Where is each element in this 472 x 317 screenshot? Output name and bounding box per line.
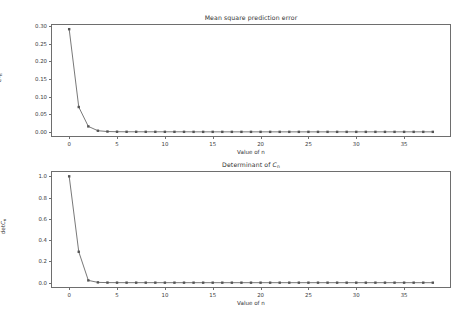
data-point-marker (116, 131, 118, 133)
data-point-marker (240, 281, 242, 283)
x-tick-mark (117, 137, 118, 139)
y-tick-label: 0.2 (25, 258, 47, 264)
data-point-marker (221, 281, 223, 283)
data-point-marker (422, 131, 424, 133)
data-point-marker (97, 281, 99, 283)
data-point-marker (154, 281, 156, 283)
data-point-marker (183, 131, 185, 133)
data-point-marker (116, 281, 118, 283)
data-point-marker (269, 281, 271, 283)
y-tick-mark (49, 97, 51, 98)
data-point-marker (125, 281, 127, 283)
data-point-marker (269, 131, 271, 133)
data-point-marker (154, 131, 156, 133)
y-tick-mark (49, 219, 51, 220)
y-tick-label: 0.15 (25, 76, 47, 82)
data-point-marker (202, 281, 204, 283)
data-point-marker (192, 131, 194, 133)
bottom-data-series (51, 171, 451, 288)
data-point-marker (432, 131, 434, 133)
y-tick-mark (49, 61, 51, 62)
data-point-marker (68, 28, 70, 30)
data-point-marker (106, 281, 108, 283)
top-y-axis-label: e2n (0, 74, 3, 83)
data-point-marker (412, 281, 414, 283)
data-point-marker (432, 281, 434, 283)
y-tick-mark (49, 79, 51, 80)
x-tick-mark (213, 137, 214, 139)
y-tick-mark (49, 176, 51, 177)
x-tick-label: 5 (115, 292, 118, 298)
top-data-series (51, 24, 451, 137)
x-tick-label: 20 (257, 292, 264, 298)
y-tick-mark (49, 283, 51, 284)
x-tick-mark (404, 137, 405, 139)
data-point-marker (68, 175, 70, 177)
data-point-marker (384, 281, 386, 283)
data-point-marker (288, 281, 290, 283)
data-point-marker (393, 281, 395, 283)
x-tick-mark (165, 137, 166, 139)
y-tick-mark (49, 132, 51, 133)
data-point-marker (145, 131, 147, 133)
x-tick-label: 0 (67, 292, 70, 298)
x-tick-mark (308, 288, 309, 290)
data-point-marker (298, 131, 300, 133)
top-chart-title: Mean square prediction error (51, 14, 451, 21)
x-tick-label: 20 (257, 141, 264, 147)
data-point-marker (365, 281, 367, 283)
x-tick-label: 30 (353, 292, 360, 298)
x-tick-label: 25 (305, 141, 312, 147)
data-point-marker (345, 131, 347, 133)
data-point-marker (336, 131, 338, 133)
data-point-marker (202, 131, 204, 133)
series-line (69, 29, 433, 132)
data-point-marker (288, 131, 290, 133)
data-point-marker (240, 131, 242, 133)
data-point-marker (412, 131, 414, 133)
x-tick-mark (404, 288, 405, 290)
data-point-marker (259, 281, 261, 283)
data-point-marker (307, 281, 309, 283)
x-tick-mark (308, 137, 309, 139)
data-point-marker (97, 130, 99, 132)
data-point-marker (212, 281, 214, 283)
data-point-marker (250, 281, 252, 283)
data-point-marker (145, 281, 147, 283)
data-point-marker (279, 131, 281, 133)
data-point-marker (87, 279, 89, 281)
x-tick-label: 5 (115, 141, 118, 147)
data-point-marker (393, 131, 395, 133)
x-tick-mark (213, 288, 214, 290)
data-point-marker (164, 281, 166, 283)
y-tick-mark (49, 261, 51, 262)
y-tick-mark (49, 240, 51, 241)
data-point-marker (192, 281, 194, 283)
data-point-marker (106, 130, 108, 132)
data-point-marker (231, 131, 233, 133)
data-point-marker (212, 131, 214, 133)
data-point-marker (164, 131, 166, 133)
data-point-marker (326, 281, 328, 283)
x-tick-label: 0 (67, 141, 70, 147)
y-tick-mark (49, 114, 51, 115)
x-tick-label: 25 (305, 292, 312, 298)
y-tick-label: 0.6 (25, 216, 47, 222)
x-tick-label: 30 (353, 141, 360, 147)
data-point-marker (173, 281, 175, 283)
y-tick-mark (49, 26, 51, 27)
x-tick-mark (356, 288, 357, 290)
x-tick-label: 15 (209, 141, 216, 147)
x-tick-label: 10 (161, 292, 168, 298)
data-point-marker (336, 281, 338, 283)
x-tick-mark (356, 137, 357, 139)
x-tick-mark (117, 288, 118, 290)
subplot-mean-square-prediction-error: Mean square prediction error 0.000.050.1… (0, 8, 472, 160)
data-point-marker (173, 131, 175, 133)
y-tick-label: 0.10 (25, 94, 47, 100)
data-point-marker (374, 281, 376, 283)
x-tick-mark (165, 288, 166, 290)
subplot-determinant-of-cn: Determinant of Cn 0.00.20.40.60.81.0 051… (0, 155, 472, 317)
series-line (69, 176, 433, 282)
y-tick-label: 1.0 (25, 173, 47, 179)
